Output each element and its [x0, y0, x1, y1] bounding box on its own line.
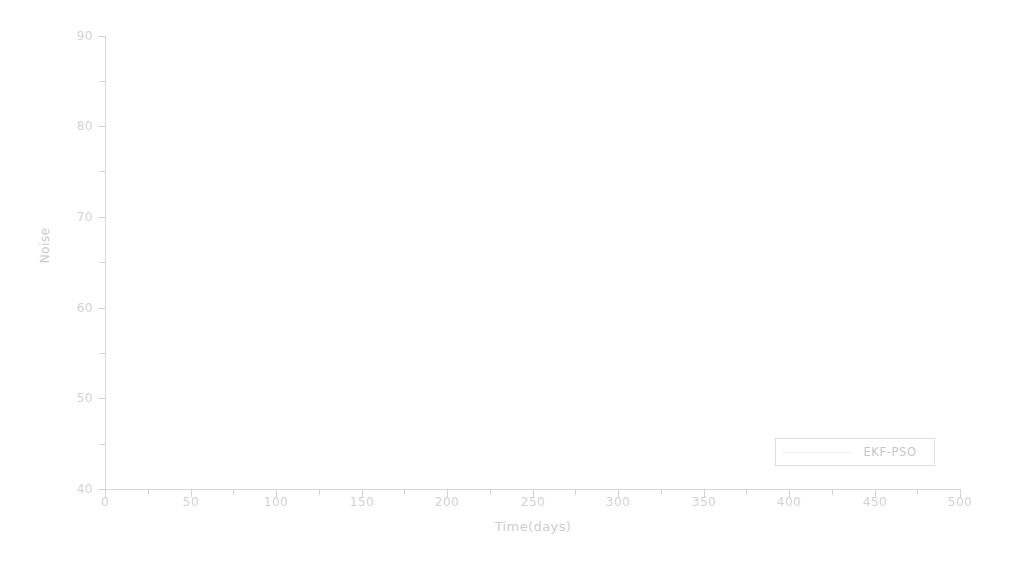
- x-tick-label-200: 200: [422, 495, 472, 509]
- series-ekf-pso: [106, 36, 961, 489]
- x-tick-label-0: 0: [80, 495, 130, 509]
- y-tick-80: [98, 126, 106, 127]
- x-axis-title: Time(days): [105, 519, 961, 534]
- y-tick-50: [98, 398, 106, 399]
- chart-figure: 90 80 70 60 50 40 0 50 100 150 200 250 3…: [0, 0, 1014, 572]
- x-tick-minor: [661, 489, 662, 495]
- x-tick-label-50: 50: [166, 495, 216, 509]
- x-tick-minor: [319, 489, 320, 495]
- x-tick-label-450: 450: [850, 495, 900, 509]
- x-tick-minor: [490, 489, 491, 495]
- y-tick-label-50: 50: [48, 391, 93, 405]
- x-tick-label-150: 150: [337, 495, 387, 509]
- y-tick-70: [98, 217, 106, 218]
- y-tick-label-90: 90: [48, 29, 93, 43]
- x-tick-minor: [832, 489, 833, 495]
- plot-area: [106, 36, 961, 489]
- x-tick-minor: [917, 489, 918, 495]
- y-tick-label-60: 60: [48, 301, 93, 315]
- legend-box[interactable]: EKF-PSO: [775, 438, 935, 466]
- x-tick-minor: [148, 489, 149, 495]
- x-tick-minor: [233, 489, 234, 495]
- x-tick-label-300: 300: [593, 495, 643, 509]
- y-tick-label-80: 80: [48, 119, 93, 133]
- x-tick-minor: [404, 489, 405, 495]
- y-tick-label-70: 70: [48, 210, 93, 224]
- x-tick-label-250: 250: [508, 495, 558, 509]
- x-tick-minor: [746, 489, 747, 495]
- x-tick-label-350: 350: [679, 495, 729, 509]
- x-tick-label-500: 500: [935, 495, 985, 509]
- legend-entry-ekf-pso[interactable]: EKF-PSO: [776, 439, 934, 465]
- x-tick-label-100: 100: [251, 495, 301, 509]
- y-axis-title: Noise: [37, 196, 52, 296]
- y-tick-60: [98, 308, 106, 309]
- legend-label-ekf-pso: EKF-PSO: [852, 445, 934, 459]
- y-tick-90: [98, 36, 106, 37]
- legend-line-sample-icon: [782, 452, 852, 453]
- y-tick-label-40: 40: [48, 482, 93, 496]
- x-tick-minor: [575, 489, 576, 495]
- x-tick-label-400: 400: [764, 495, 814, 509]
